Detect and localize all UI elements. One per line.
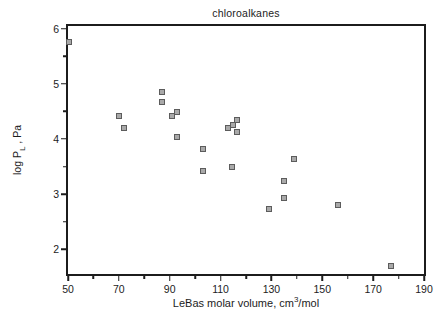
x-axis-tick-label: 70 <box>113 283 125 295</box>
y-axis-major-tick <box>61 248 66 250</box>
y-axis-minor-tick <box>63 221 66 223</box>
x-axis-minor-tick <box>296 276 298 279</box>
x-axis-major-tick <box>67 276 69 281</box>
data-point-marker <box>229 164 235 170</box>
x-axis-tick-label: 50 <box>62 283 74 295</box>
x-axis-minor-tick <box>398 276 400 279</box>
data-point-marker <box>66 39 72 45</box>
y-axis-major-tick <box>61 193 66 195</box>
data-point-marker <box>121 125 127 131</box>
data-point-marker <box>335 202 341 208</box>
y-axis-tick-label: 5 <box>53 78 59 90</box>
y-axis-label-subscript: L <box>18 147 27 151</box>
chart-title: chloroalkanes <box>66 7 426 19</box>
x-axis-label-prefix: LeBas molar volume, cm <box>173 297 294 309</box>
data-point-marker <box>281 178 287 184</box>
x-axis-tick-label: 90 <box>164 283 176 295</box>
data-point-marker <box>174 134 180 140</box>
x-axis-major-tick <box>220 276 222 281</box>
y-axis-tick-label: 3 <box>53 188 59 200</box>
x-axis-tick-label: 190 <box>415 283 433 295</box>
y-axis-label-prefix: log P <box>11 151 23 175</box>
data-point-marker <box>266 206 272 212</box>
x-axis-major-tick <box>423 276 425 281</box>
y-axis-tick-label: 4 <box>53 133 59 145</box>
x-axis-major-tick <box>118 276 120 281</box>
y-axis-major-tick <box>61 28 66 30</box>
x-axis-major-tick <box>322 276 324 281</box>
x-axis-minor-tick <box>245 276 247 279</box>
y-axis-major-tick <box>61 83 66 85</box>
data-point-marker <box>200 168 206 174</box>
data-point-marker <box>174 109 180 115</box>
y-axis-label: log PL , Pa <box>11 125 26 175</box>
x-axis-tick-label: 130 <box>263 283 281 295</box>
chart-figure: chloroalkanes 50709011013015017019023456… <box>0 0 443 319</box>
x-axis-tick-label: 170 <box>364 283 382 295</box>
x-axis-label-suffix: /mol <box>298 297 319 309</box>
x-axis-major-tick <box>271 276 273 281</box>
data-point-marker <box>388 263 394 269</box>
y-axis-tick-label: 2 <box>53 243 59 255</box>
x-axis-tick-label: 110 <box>212 283 229 295</box>
x-axis-label: LeBas molar volume, cm3/mol <box>66 295 426 309</box>
x-axis-major-tick <box>169 276 171 281</box>
data-point-marker <box>291 156 297 162</box>
x-axis-tick-label: 150 <box>314 283 332 295</box>
x-axis-minor-tick <box>93 276 95 279</box>
data-point-marker <box>234 129 240 135</box>
y-axis-minor-tick <box>63 166 66 168</box>
x-axis-minor-tick <box>347 276 349 279</box>
y-axis-minor-tick <box>63 111 66 113</box>
x-axis-minor-tick <box>194 276 196 279</box>
y-axis-major-tick <box>61 138 66 140</box>
y-axis-tick-label: 6 <box>53 23 59 35</box>
x-axis-major-tick <box>372 276 374 281</box>
data-point-marker <box>200 146 206 152</box>
data-point-marker <box>281 195 287 201</box>
y-axis-minor-tick <box>63 56 66 58</box>
data-point-marker <box>159 89 165 95</box>
data-point-marker <box>116 113 122 119</box>
x-axis-minor-tick <box>144 276 146 279</box>
y-axis-label-suffix: , Pa <box>11 125 23 147</box>
plot-area: 50709011013015017019023456 <box>66 24 426 276</box>
data-point-marker <box>159 99 165 105</box>
data-point-marker <box>234 117 240 123</box>
